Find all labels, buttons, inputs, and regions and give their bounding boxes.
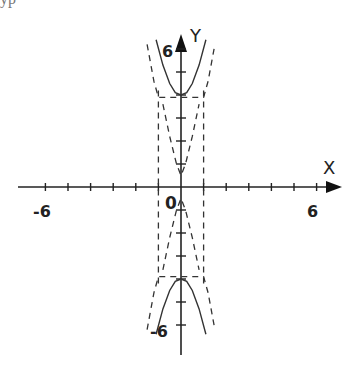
y-tick-label-6: 6 [162,42,173,61]
x-axis-label: X [323,157,335,178]
origin-label: 0 [165,193,177,213]
y-tick-label-neg6: -6 [150,322,168,341]
y-axis-label: Y [189,25,202,46]
x-tick-label-6: 6 [307,202,318,221]
x-tick-label-neg6: -6 [33,202,51,221]
coordinate-plot: -666-60XY [0,0,362,371]
axes [18,34,342,355]
x-axis-arrow-icon [326,181,342,193]
